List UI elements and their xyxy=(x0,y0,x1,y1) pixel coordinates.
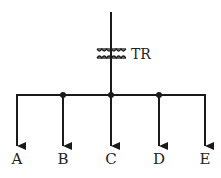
branch-label-e: E xyxy=(200,150,211,168)
branch-label-b: B xyxy=(57,150,68,168)
distribution-diagram: TR A B C D E xyxy=(0,0,221,178)
transformer-label: TR xyxy=(131,46,151,62)
branch-label-a: A xyxy=(11,150,23,168)
branch-label-d: D xyxy=(153,150,165,168)
branch-label-c: C xyxy=(105,150,116,168)
